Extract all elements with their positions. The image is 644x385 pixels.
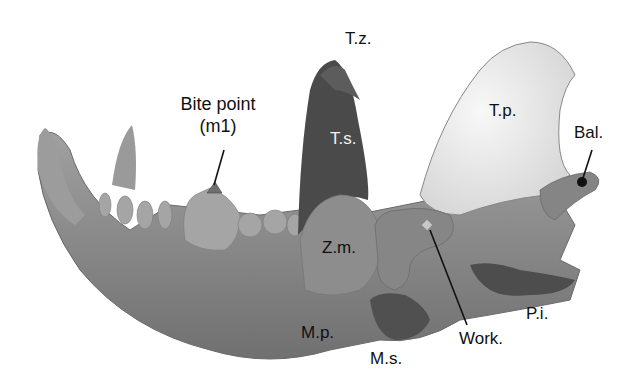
incisor-tooth bbox=[112, 125, 136, 190]
zm-label: Z.m. bbox=[322, 239, 356, 256]
tz-label: T.z. bbox=[345, 30, 371, 47]
bite-point-label: Bite point (m1) bbox=[162, 95, 274, 135]
bite-point-pointer-line bbox=[214, 150, 224, 185]
bal-label: Bal. bbox=[574, 124, 603, 141]
pi-label: P.i. bbox=[526, 305, 548, 322]
work-label: Work. bbox=[459, 330, 503, 347]
ts-label: T.s. bbox=[330, 130, 356, 147]
tp-label: T.p. bbox=[489, 102, 516, 119]
mandible-diagram: Bite point (m1) T.z. T.s. T.p. Bal. Z.m.… bbox=[0, 0, 644, 385]
bite-point-label-line2: (m1) bbox=[162, 117, 274, 135]
balancing-point-marker bbox=[577, 177, 587, 187]
mp-label: M.p. bbox=[301, 324, 334, 341]
bite-point-label-line1: Bite point bbox=[162, 95, 274, 113]
ms-label: M.s. bbox=[370, 350, 402, 367]
